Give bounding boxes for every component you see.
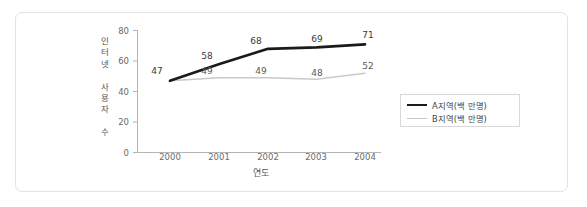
x-tick-label-2002: 2002 — [248, 152, 288, 162]
y-axis-ticks — [133, 31, 138, 153]
y-tick-label-80: 80 — [105, 26, 129, 36]
data-label-a-2001: 58 — [194, 51, 220, 61]
data-label-b-2001: 49 — [194, 66, 220, 76]
y-tick-label-0: 0 — [105, 148, 129, 158]
data-label-a-2002: 68 — [243, 36, 269, 46]
x-tick-label-2003: 2003 — [296, 152, 336, 162]
legend-item-series-a: A지역(백 만명) — [407, 99, 513, 111]
y-tick-label-40: 40 — [105, 87, 129, 97]
legend-label-series-b: B지역(백 만명) — [432, 112, 487, 124]
y-tick-label-20: 20 — [105, 117, 129, 127]
data-label-a-2000: 47 — [144, 66, 170, 76]
legend-line-swatch-b-icon — [407, 118, 427, 119]
y-tick-label-60: 60 — [105, 56, 129, 66]
data-label-a-2003: 69 — [304, 34, 330, 44]
x-tick-label-2001: 2001 — [199, 152, 239, 162]
data-label-b-2004: 52 — [355, 61, 381, 71]
data-label-b-2002: 49 — [248, 66, 274, 76]
chart-legend: A지역(백 만명) B지역(백 만명) — [400, 94, 520, 127]
data-label-a-2004: 71 — [355, 30, 381, 40]
data-label-b-2003: 48 — [304, 68, 330, 78]
legend-item-series-b: B지역(백 만명) — [407, 112, 513, 124]
x-tick-label-2004: 2004 — [345, 152, 385, 162]
x-tick-label-2000: 2000 — [150, 152, 190, 162]
legend-label-series-a: A지역(백 만명) — [432, 99, 487, 111]
legend-line-swatch-a-icon — [407, 104, 427, 106]
x-axis-title: 연도 — [231, 166, 291, 179]
line-chart: 인 터 넷 사 용 자 수 연도 80 60 40 20 0 2000 2001… — [0, 0, 587, 207]
